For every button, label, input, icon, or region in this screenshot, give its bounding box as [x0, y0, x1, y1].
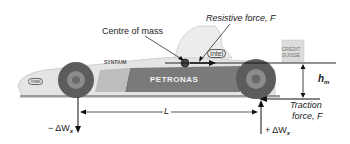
front-load-transfer-label: − ΔWx — [48, 124, 73, 134]
rear-load-transfer-label: + ΔWx — [265, 126, 290, 136]
sponsor-credit-suisse: CREDIT SUISSE — [281, 46, 301, 58]
front-wheel — [58, 62, 94, 98]
resistive-force-label: Resistive force, F — [206, 14, 276, 23]
rear-load-arrowhead — [258, 100, 264, 107]
sponsor-intel-nose: Intel — [28, 78, 43, 85]
load-transfer-diagram: PETRONAS SYNTIUM Intel Intel CREDIT SUIS… — [0, 0, 350, 144]
rear-wheel — [236, 59, 276, 99]
front-load-arrowhead — [75, 126, 81, 133]
traction-force-label-line1: Traction — [290, 101, 322, 110]
wheelbase-label: L — [164, 107, 169, 116]
sponsor-petronas: PETRONAS — [150, 76, 198, 84]
centre-of-mass-label: Centre of mass — [102, 27, 163, 36]
sponsor-syntium: SYNTIUM — [104, 60, 127, 65]
sponsor-intel-engine: Intel — [207, 49, 226, 58]
traction-force-label-line2: force, F — [292, 112, 323, 121]
cg-height-label: hm — [318, 74, 329, 85]
